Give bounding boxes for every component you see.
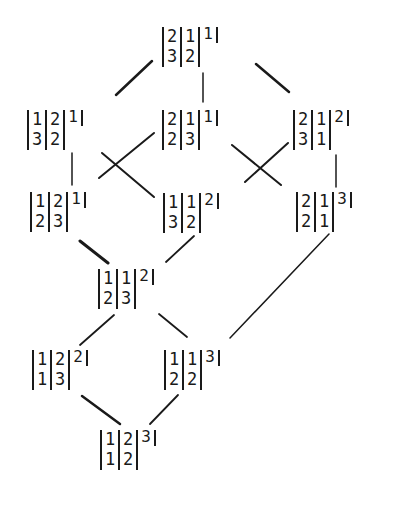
cell: 2 bbox=[50, 109, 60, 129]
edge-E2-F bbox=[150, 395, 178, 424]
lattice-node-B1: 13 22 1 bbox=[27, 108, 83, 154]
column-2: 23 bbox=[52, 348, 68, 389]
lattice-node-D: 12 13 2 bbox=[98, 267, 154, 313]
cell: 2 bbox=[301, 191, 311, 211]
column-2: 11 bbox=[316, 190, 332, 231]
cell: 1 bbox=[187, 349, 197, 369]
cell: 1 bbox=[319, 211, 329, 231]
cell: 1 bbox=[316, 129, 326, 149]
bar bbox=[218, 350, 220, 366]
cell: 1 bbox=[319, 191, 329, 211]
single-cell: 2 bbox=[201, 191, 217, 209]
cell: 2 bbox=[123, 429, 133, 449]
cell: 2 bbox=[169, 369, 179, 389]
cell: 3 bbox=[168, 212, 178, 232]
cell: 1 bbox=[35, 191, 45, 211]
lattice-edges bbox=[0, 0, 398, 512]
column-2: 12 bbox=[182, 25, 198, 66]
edge-B1-C2 bbox=[102, 153, 154, 197]
single-cell: 2 bbox=[136, 267, 152, 285]
cell: 1 bbox=[186, 192, 196, 212]
lattice-node-E1: 11 23 2 bbox=[32, 348, 88, 394]
cell: 2 bbox=[103, 288, 113, 308]
cell: 3 bbox=[298, 129, 308, 149]
cell: 2 bbox=[298, 109, 308, 129]
edge-B2-C3 bbox=[232, 145, 281, 185]
column-2: 12 bbox=[184, 348, 200, 389]
cell: 1 bbox=[37, 369, 47, 389]
bar bbox=[152, 269, 154, 285]
cell: 2 bbox=[50, 129, 60, 149]
edge-A-B1 bbox=[116, 61, 152, 95]
column-1: 22 bbox=[164, 108, 180, 149]
single-cell: 1 bbox=[68, 190, 84, 208]
cell: 1 bbox=[168, 192, 178, 212]
column-2: 13 bbox=[182, 108, 198, 149]
edge-B2-C1 bbox=[99, 133, 154, 178]
cell: 1 bbox=[37, 349, 47, 369]
cell: 2 bbox=[301, 211, 311, 231]
edge-D-E2 bbox=[159, 314, 187, 337]
edge-A-B3 bbox=[256, 64, 289, 92]
lattice-node-B3: 23 11 2 bbox=[293, 108, 349, 154]
cell: 1 bbox=[32, 109, 42, 129]
column-2: 22 bbox=[47, 108, 63, 149]
column-1: 12 bbox=[100, 267, 116, 308]
single-cell: 1 bbox=[65, 108, 81, 126]
cell: 1 bbox=[105, 429, 115, 449]
bar bbox=[216, 27, 218, 43]
cell: 2 bbox=[167, 109, 177, 129]
edge-C1-D bbox=[80, 241, 108, 263]
bar bbox=[350, 192, 352, 208]
bar bbox=[216, 110, 218, 126]
cell: 3 bbox=[32, 129, 42, 149]
bar bbox=[217, 193, 219, 209]
cell: 1 bbox=[185, 26, 195, 46]
column-2: 12 bbox=[183, 191, 199, 232]
column-1: 13 bbox=[165, 191, 181, 232]
cell: 2 bbox=[186, 212, 196, 232]
cell: 1 bbox=[105, 449, 115, 469]
cell: 1 bbox=[316, 109, 326, 129]
lattice-node-A: 23 12 1 bbox=[162, 25, 218, 71]
lattice-node-E2: 12 12 3 bbox=[164, 348, 220, 394]
cell: 3 bbox=[55, 369, 65, 389]
column-2: 13 bbox=[118, 267, 134, 308]
edge-E1-F bbox=[82, 396, 120, 424]
column-1: 12 bbox=[32, 190, 48, 231]
cell: 1 bbox=[103, 268, 113, 288]
bar bbox=[86, 350, 88, 366]
cell: 3 bbox=[121, 288, 131, 308]
column-1: 23 bbox=[295, 108, 311, 149]
lattice-node-B2: 22 13 1 bbox=[162, 108, 218, 154]
single-cell: 1 bbox=[200, 25, 216, 43]
column-2: 11 bbox=[313, 108, 329, 149]
cell: 3 bbox=[185, 129, 195, 149]
cell: 3 bbox=[167, 46, 177, 66]
column-2: 22 bbox=[120, 428, 136, 469]
column-1: 13 bbox=[29, 108, 45, 149]
bar bbox=[347, 110, 349, 126]
cell: 3 bbox=[53, 211, 63, 231]
edge-B3-C2 bbox=[245, 143, 288, 182]
cell: 2 bbox=[53, 191, 63, 211]
single-cell: 2 bbox=[331, 108, 347, 126]
column-1: 22 bbox=[298, 190, 314, 231]
cell: 2 bbox=[123, 449, 133, 469]
cell: 1 bbox=[169, 349, 179, 369]
column-1: 11 bbox=[34, 348, 50, 389]
cell: 2 bbox=[35, 211, 45, 231]
single-cell: 1 bbox=[200, 108, 216, 126]
column-1: 12 bbox=[166, 348, 182, 389]
cell: 1 bbox=[185, 109, 195, 129]
edge-D-E1 bbox=[80, 315, 114, 345]
cell: 2 bbox=[187, 369, 197, 389]
lattice-node-F: 11 22 3 bbox=[100, 428, 156, 474]
single-cell: 3 bbox=[138, 428, 154, 446]
single-cell: 2 bbox=[70, 348, 86, 366]
cell: 2 bbox=[167, 26, 177, 46]
cell: 2 bbox=[185, 46, 195, 66]
edge-C2-D bbox=[166, 236, 194, 262]
cell: 2 bbox=[55, 349, 65, 369]
cell: 1 bbox=[121, 268, 131, 288]
